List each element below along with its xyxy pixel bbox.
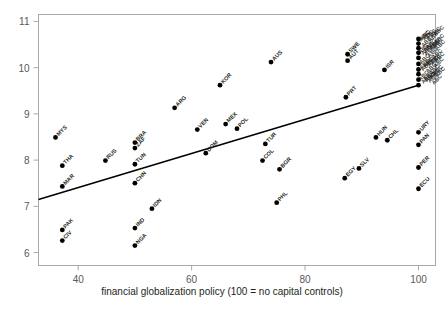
- point-label: TUR: [265, 131, 277, 143]
- data-point: MAR: [60, 173, 75, 189]
- axis-ticks: [34, 21, 419, 270]
- point-label: SLV: [359, 156, 371, 168]
- axis-tick-labels: 40608010067891011: [18, 16, 427, 284]
- data-point: COL: [260, 147, 275, 163]
- data-point: HUN: [374, 124, 389, 140]
- data-points: MYSTHAMARPAKCIVRUSBRAZAFTUNCHNINDNGAIDNA…: [53, 37, 431, 248]
- scatter-chart: 40608010067891011 MYSTHAMARPAKCIVRUSBRAZ…: [0, 0, 445, 309]
- y-tick-label: 9: [24, 109, 30, 120]
- data-point: PRT: [343, 84, 358, 99]
- data-point: IDN: [150, 197, 163, 211]
- data-point: CHN: [133, 170, 148, 186]
- point-label: PHL: [276, 190, 289, 203]
- data-point: URY: [416, 119, 431, 135]
- y-tick-label: 10: [18, 63, 30, 74]
- data-point: POL: [235, 115, 250, 131]
- x-tick-label: 60: [186, 274, 198, 285]
- y-tick-label: 6: [24, 248, 30, 259]
- point-label: CHN: [135, 170, 148, 183]
- point-label: BGR: [279, 156, 292, 169]
- point-label: POL: [237, 115, 250, 128]
- data-point: VEN: [195, 117, 209, 132]
- point-label: ISR: [384, 59, 395, 70]
- dense-label-cluster: ABCABCABCABCABCABCABCABCABCABCABCABCABCA…: [417, 24, 445, 86]
- data-point: TUR: [263, 131, 277, 146]
- point-label: MYS: [55, 124, 68, 137]
- data-point: KOR: [218, 72, 233, 88]
- point-label: CHL: [387, 127, 400, 140]
- data-point: TUN: [133, 151, 147, 166]
- data-point: PER: [416, 155, 430, 170]
- point-label: PER: [418, 155, 430, 167]
- point-label: VEN: [197, 117, 209, 129]
- trend-line: [39, 85, 419, 199]
- point-label: EGY: [344, 165, 357, 178]
- data-point: PHL: [274, 190, 289, 205]
- point-label: MAR: [62, 173, 75, 186]
- y-tick-label: 11: [19, 16, 30, 27]
- data-point: RUS: [103, 147, 118, 163]
- point-label: AUS: [271, 49, 284, 62]
- data-point: MYS: [53, 124, 68, 140]
- point-label: THA: [62, 153, 74, 165]
- data-point: ARG: [172, 94, 187, 110]
- point-label: COL: [262, 147, 275, 160]
- point-label: IDN: [152, 197, 163, 208]
- plot-canvas: 40608010067891011 MYSTHAMARPAKCIVRUSBRAZ…: [0, 0, 445, 309]
- data-point: ISR: [382, 59, 395, 73]
- point-label: KOR: [220, 72, 233, 85]
- y-tick-label: 8: [24, 155, 30, 166]
- point-label: NGA: [135, 232, 148, 245]
- data-point: DOM: [203, 139, 219, 156]
- regression-line: [39, 85, 419, 199]
- point-label: PRT: [346, 84, 359, 97]
- point-label: ARG: [174, 94, 187, 107]
- point-label: MEX: [225, 111, 238, 124]
- data-point: EGY: [342, 165, 357, 181]
- point-label: URY: [418, 119, 431, 132]
- data-point: BGR: [277, 156, 292, 172]
- y-tick-label: 7: [24, 201, 30, 212]
- data-point: [416, 83, 421, 88]
- point-label: ECU: [418, 176, 431, 189]
- x-tick-label: 40: [73, 274, 85, 285]
- data-point: NGA: [133, 232, 148, 248]
- point-label: PAK: [62, 217, 74, 229]
- data-point: ECU: [416, 176, 431, 191]
- point-label: RUS: [105, 147, 118, 160]
- x-tick-label: 100: [410, 274, 427, 285]
- x-tick-label: 80: [299, 274, 311, 285]
- point-marker: [416, 83, 421, 88]
- point-label: IND: [135, 217, 146, 228]
- data-point: IND: [133, 217, 146, 231]
- point-label: TUN: [135, 151, 147, 163]
- data-point: AUS: [269, 49, 284, 65]
- data-point: THA: [60, 153, 74, 168]
- data-point: SLV: [357, 156, 371, 171]
- x-axis-title: financial globalization policy (100 = no…: [101, 286, 343, 297]
